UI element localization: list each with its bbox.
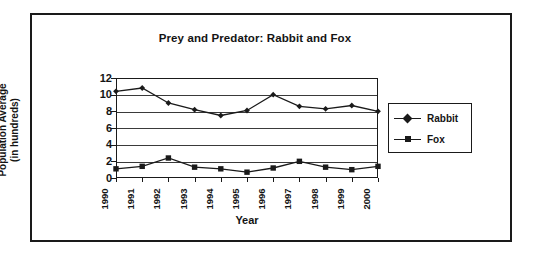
data-point-marker [218, 166, 223, 171]
data-point-marker [192, 164, 197, 169]
x-tick-mark [142, 178, 143, 182]
data-point-marker [113, 166, 118, 171]
diamond-marker-icon [394, 112, 421, 124]
data-point-marker [192, 107, 198, 113]
data-point-marker [218, 113, 224, 119]
x-tick-mark [247, 178, 248, 182]
x-tick-label: 1995 [231, 183, 241, 215]
x-tick-label: 1994 [205, 183, 215, 215]
data-point-marker [270, 92, 276, 98]
square-marker-icon [394, 133, 421, 145]
data-point-marker [244, 108, 250, 114]
data-point-marker [166, 100, 172, 106]
x-tick-mark [168, 178, 169, 182]
x-tick-label: 1998 [310, 183, 320, 215]
legend-entry-rabbit: Rabbit [394, 110, 470, 126]
figure-root: Prey and Predator: Rabbit and Fox Popula… [0, 0, 533, 255]
data-point-marker [166, 155, 171, 160]
x-tick-label: 1990 [100, 183, 110, 215]
legend-entry-fox: Fox [394, 131, 470, 147]
x-axis-title: Year [116, 214, 378, 226]
y-tick-label: 6 [92, 123, 112, 134]
data-point-marker [349, 167, 354, 172]
chart-legend: Rabbit Fox [388, 103, 472, 153]
x-tick-mark [352, 178, 353, 182]
data-point-marker [244, 169, 249, 174]
y-axis-title-line2: (in hundreds) [9, 70, 21, 190]
data-point-marker [140, 164, 145, 169]
x-tick-mark [326, 178, 327, 182]
y-axis-title-line1: Population Average [0, 70, 9, 190]
y-tick-label: 4 [92, 139, 112, 150]
y-axis-tick-labels: 024681012 [90, 78, 112, 178]
x-axis-tick-labels: 1990199119921993199419951996199719981999… [116, 183, 378, 215]
x-tick-label: 1991 [126, 183, 136, 215]
x-tick-mark [195, 178, 196, 182]
series-fox [113, 155, 380, 175]
data-point-marker [297, 103, 303, 109]
x-tick-mark [116, 178, 117, 182]
y-tick-label: 2 [92, 156, 112, 167]
y-tick-label: 10 [92, 89, 112, 100]
y-tick-label: 0 [92, 173, 112, 184]
data-point-marker [323, 106, 329, 112]
legend-label-rabbit: Rabbit [421, 113, 458, 124]
legend-label-fox: Fox [421, 134, 445, 145]
data-point-marker [323, 164, 328, 169]
x-tick-label: 1997 [283, 183, 293, 215]
x-tick-label: 1993 [179, 183, 189, 215]
x-tick-label: 1996 [257, 183, 267, 215]
x-tick-mark [299, 178, 300, 182]
x-tick-mark [378, 178, 379, 182]
x-tick-label: 2000 [362, 183, 372, 215]
series-rabbit [113, 85, 381, 118]
y-tick-label: 8 [92, 106, 112, 117]
data-point-marker [375, 164, 380, 169]
chart-title: Prey and Predator: Rabbit and Fox [60, 32, 450, 44]
y-axis-title: Population Average (in hundreds) [0, 70, 23, 190]
data-point-marker [349, 103, 355, 109]
x-tick-label: 1999 [336, 183, 346, 215]
chart-data-layer [116, 78, 378, 178]
y-tick-label: 12 [92, 73, 112, 84]
data-point-marker [271, 165, 276, 170]
data-point-marker [139, 85, 145, 91]
data-point-marker [297, 159, 302, 164]
x-tick-mark [221, 178, 222, 182]
x-tick-label: 1992 [152, 183, 162, 215]
x-tick-mark [273, 178, 274, 182]
